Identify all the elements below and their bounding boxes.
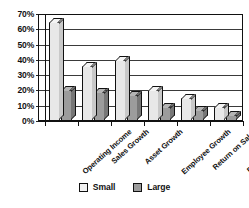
bar-chart: 0%10%20%30%40%50%60%70% Operating Income…	[0, 0, 249, 208]
y-tick-label: 10%	[18, 101, 34, 110]
wall-gridline	[38, 106, 45, 107]
plot-left-wall	[38, 14, 45, 121]
legend-item-small[interactable]: Small	[79, 183, 115, 192]
bar-small[interactable]	[214, 107, 225, 121]
x-tick-mark	[144, 121, 145, 126]
x-tick-mark	[210, 121, 211, 126]
x-axis-labels: Operating IncomeSales GrowthAsset Growth…	[0, 121, 249, 181]
y-tick-label: 50%	[18, 40, 34, 49]
legend-label-large: Large	[147, 183, 170, 192]
bar-side-face	[59, 18, 64, 120]
bar-side-face	[71, 86, 76, 120]
bar-group	[148, 14, 171, 121]
x-tick-mark	[45, 121, 46, 126]
y-axis-spine	[38, 14, 39, 122]
wall-gridline	[38, 29, 45, 30]
y-tick-label: 60%	[18, 25, 34, 34]
bar-small[interactable]	[49, 22, 60, 121]
bar-side-face	[92, 62, 97, 120]
bar-small[interactable]	[82, 66, 93, 121]
bar-group	[181, 14, 204, 121]
legend-item-large[interactable]: Large	[133, 183, 170, 192]
bar-small[interactable]	[115, 60, 126, 121]
x-tick-mark	[78, 121, 79, 126]
x-tick-mark	[243, 121, 244, 126]
bar-group	[214, 14, 237, 121]
x-tick-mark	[177, 121, 178, 126]
bar-side-face	[191, 94, 196, 120]
legend-label-small: Small	[93, 183, 115, 192]
y-tick-label: 20%	[18, 86, 34, 95]
wall-gridline	[38, 90, 45, 91]
bar-group	[115, 14, 138, 121]
y-tick-label: 30%	[18, 71, 34, 80]
x-tick-mark	[111, 121, 112, 126]
bar-group	[49, 14, 72, 121]
bars-layer	[45, 14, 243, 121]
bar-small[interactable]	[181, 98, 192, 121]
bar-group	[82, 14, 105, 121]
bar-side-face	[104, 88, 109, 120]
wall-gridline	[38, 75, 45, 76]
legend-swatch-small-icon	[79, 183, 88, 192]
wall-gridline	[38, 45, 45, 46]
wall-gridline	[38, 60, 45, 61]
bar-side-face	[137, 91, 142, 120]
bar-small[interactable]	[148, 90, 159, 121]
y-tick-label: 40%	[18, 56, 34, 65]
bar-side-face	[158, 86, 163, 120]
legend-swatch-large-icon	[133, 183, 142, 192]
chart-legend: Small Large	[0, 183, 249, 192]
y-tick-label: 70%	[18, 10, 34, 19]
bar-side-face	[125, 56, 130, 120]
